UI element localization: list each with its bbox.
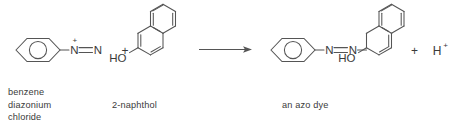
nitrogen-label-2: N: [94, 44, 102, 56]
nitrogen-label-1: N: [70, 44, 78, 56]
naphthol-double-l-bottom: [151, 47, 160, 52]
caption-line-2: diazonium: [8, 99, 51, 112]
benzene-ring-hexagon-product: [271, 39, 315, 62]
reaction-structures-svg: N + N +: [0, 0, 457, 138]
naphthol-structure: [130, 4, 176, 55]
benzenediazonium-structure: [16, 39, 93, 62]
caption-2-naphthol: 2-naphthol: [112, 99, 157, 112]
plus-sign-products: +: [411, 44, 418, 58]
naphthol-double-u-top: [153, 5, 163, 11]
hydroxyl-label-reactant: HO: [109, 52, 126, 64]
naphthol-bond-l1: [138, 26, 151, 33]
naphthol-bond-u2: [151, 4, 164, 11]
azo-nitrogen-label-1: N: [325, 44, 333, 56]
product-naph-double-l-fusion: [382, 28, 389, 32]
proton-charge-label: +: [443, 41, 448, 50]
caption-an-azo-dye: an azo dye: [282, 99, 328, 112]
benzene-ring-hexagon-reactant: [16, 39, 60, 62]
product-naph-bond-l1: [367, 26, 380, 33]
caption-line-1: benzene: [8, 86, 51, 99]
diazonium-positive-charge: +: [72, 36, 77, 45]
product-naph-double-l-bottom: [380, 47, 389, 52]
product-naph-bond-u2: [379, 4, 392, 11]
reaction-arrow: [199, 46, 252, 52]
hydroxyl-label-product: HO: [338, 52, 355, 64]
aromatic-circle-reactant: [29, 41, 46, 58]
aromatic-circle-product: [284, 41, 301, 58]
product-naph-bond-u5: [392, 26, 405, 33]
naphthol-bond-u3: [163, 4, 176, 11]
reaction-scheme-figure: N + N +: [0, 0, 457, 138]
naphthol-bond-u5: [163, 26, 176, 33]
proton-label: H: [433, 44, 442, 58]
caption-benzenediazonium-chloride: benzene diazonium chloride: [8, 86, 51, 124]
product-naph-bond-l3: [367, 48, 380, 55]
product-naph-double-u-top: [381, 5, 391, 11]
product-naph-bond-u3: [392, 4, 405, 11]
naphthol-double-l-fusion: [153, 28, 160, 32]
product-naphthalene-rings: [359, 4, 405, 55]
caption-line-3: chloride: [8, 111, 51, 124]
naphthol-bond-l3: [138, 48, 151, 55]
naphthol-bond-to-oxygen: [130, 48, 139, 53]
